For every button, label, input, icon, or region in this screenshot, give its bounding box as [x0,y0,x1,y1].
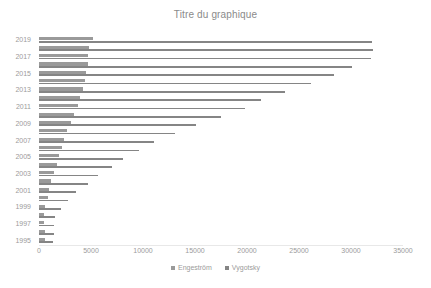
x-tick-label-10000: 10000 [133,246,152,255]
bar-group-2003 [39,170,403,178]
x-tick-label-35000: 35000 [393,246,412,255]
legend-item-vygotsky[interactable]: Vygotsky [225,264,260,272]
y-tick-label-1995: 1995 [15,237,31,245]
bar-vygotsky-2017[interactable] [39,58,371,60]
y-tick-label-2003: 2003 [15,170,31,178]
bar-vygotsky-2006[interactable] [39,150,139,152]
bar-vygotsky-1997[interactable] [39,225,54,227]
bar-group-1998 [39,212,403,220]
y-tick-label-1997: 1997 [15,220,31,228]
bar-group-2004 [39,161,403,169]
y-tick-label-2005: 2005 [15,153,31,161]
y-tick-label-2007: 2007 [15,137,31,145]
bar-group-2014 [39,78,403,86]
bar-vygotsky-1996[interactable] [39,233,54,235]
bar-group-2008 [39,128,403,136]
bar-vygotsky-2013[interactable] [39,91,285,93]
y-tick-label-2013: 2013 [15,86,31,94]
chart-title: Titre du graphique [0,9,431,20]
x-tick-label-15000: 15000 [185,246,204,255]
bar-group-2016 [39,61,403,69]
legend-swatch-icon [171,266,175,270]
chart-legend: EngeströmVygotsky [0,264,431,272]
y-tick-label-2019: 2019 [15,36,31,44]
legend-item-engestrom[interactable]: Engeström [171,264,212,272]
bar-vygotsky-2008[interactable] [39,133,175,135]
bar-group-2015 [39,69,403,77]
bar-vygotsky-1999[interactable] [39,208,61,210]
bar-vygotsky-2000[interactable] [39,200,68,202]
plot-area [39,36,403,245]
bar-vygotsky-2009[interactable] [39,124,196,126]
bar-group-2009 [39,120,403,128]
bar-group-2010 [39,111,403,119]
bar-vygotsky-2015[interactable] [39,74,334,76]
bar-vygotsky-2010[interactable] [39,116,221,118]
x-axis: 05000100001500020000250003000035000 [39,246,403,260]
bar-vygotsky-2002[interactable] [39,183,88,185]
bar-vygotsky-2016[interactable] [39,66,352,68]
bar-group-2005 [39,153,403,161]
bar-vygotsky-1995[interactable] [39,241,53,243]
bar-vygotsky-2019[interactable] [39,41,372,43]
bar-vygotsky-2005[interactable] [39,158,123,160]
y-tick-label-2017: 2017 [15,53,31,61]
legend-label: Engeström [178,264,212,272]
bar-vygotsky-2012[interactable] [39,99,261,101]
bar-vygotsky-2011[interactable] [39,108,245,110]
bar-group-2011 [39,103,403,111]
bar-group-2001 [39,186,403,194]
bar-vygotsky-2007[interactable] [39,141,154,143]
y-tick-label-2011: 2011 [16,103,31,111]
bar-group-1995 [39,237,403,245]
bar-group-2007 [39,136,403,144]
bar-vygotsky-2001[interactable] [39,191,76,193]
legend-label: Vygotsky [232,264,260,272]
y-axis: 2019201720152013201120092007200520032001… [0,36,35,245]
legend-swatch-icon [225,266,229,270]
x-tick-label-0: 0 [37,246,41,255]
bar-vygotsky-2003[interactable] [39,175,98,177]
bar-group-2012 [39,95,403,103]
bar-group-2019 [39,36,403,44]
x-tick-label-5000: 5000 [83,246,99,255]
x-tick-label-25000: 25000 [289,246,308,255]
bar-group-2017 [39,53,403,61]
bar-vygotsky-2014[interactable] [39,83,311,85]
bar-group-2002 [39,178,403,186]
bar-group-1996 [39,228,403,236]
y-tick-label-2015: 2015 [15,70,31,78]
y-tick-label-2001: 2001 [15,187,31,195]
bar-group-2018 [39,44,403,52]
x-tick-label-20000: 20000 [237,246,256,255]
bar-vygotsky-1998[interactable] [39,216,55,218]
bar-vygotsky-2004[interactable] [39,166,112,168]
x-tick-label-30000: 30000 [341,246,360,255]
chart-container: Titre du graphique 201920172015201320112… [0,0,431,288]
bar-group-1997 [39,220,403,228]
y-tick-label-1999: 1999 [15,203,31,211]
bar-vygotsky-2018[interactable] [39,49,373,51]
y-tick-label-2009: 2009 [15,120,31,128]
bar-group-1999 [39,203,403,211]
bar-group-2000 [39,195,403,203]
bar-group-2006 [39,145,403,153]
bar-group-2013 [39,86,403,94]
